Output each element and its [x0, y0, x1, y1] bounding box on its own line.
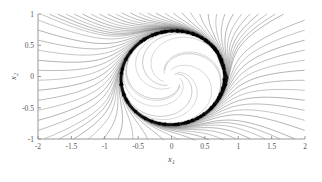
y-tick-label: 1 [30, 10, 34, 19]
x-tick-label: -0.5 [132, 142, 144, 151]
y-tick-label: -1 [28, 135, 34, 144]
x-tick-label: -1.5 [65, 142, 77, 151]
y-tick-label: 0.5 [25, 41, 35, 50]
y-tick-label: 0 [30, 72, 34, 81]
x-tick-label: 1.5 [267, 142, 277, 151]
phase-portrait-figure: -2-1.5-1-0.500.511.5210.50-0.5-1x1x2 [0, 0, 322, 182]
y-tick-label: -0.5 [22, 104, 34, 113]
x-tick-label: 0.5 [200, 142, 210, 151]
x-tick-label: 1 [236, 142, 240, 151]
phase-portrait-svg: -2-1.5-1-0.500.511.5210.50-0.5-1x1x2 [0, 0, 322, 182]
x-tick-label: -1 [102, 142, 108, 151]
x-tick-label: -2 [35, 142, 41, 151]
x-tick-label: 0 [170, 142, 174, 151]
x-tick-label: 2 [303, 142, 307, 151]
